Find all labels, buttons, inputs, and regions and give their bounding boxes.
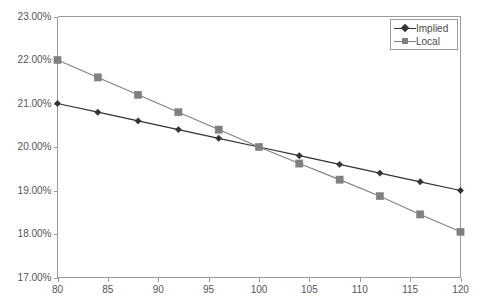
x-tick-label: 95 <box>189 284 229 295</box>
legend-label-local: Local <box>416 36 440 47</box>
legend-swatch-implied <box>394 23 416 34</box>
x-tick-label: 120 <box>441 284 481 295</box>
y-tick-label: 18.00% <box>0 228 52 239</box>
x-tick-label: 85 <box>88 284 128 295</box>
chart-legend: Implied Local <box>390 19 458 50</box>
y-tick-label: 22.00% <box>0 54 52 65</box>
x-tick-label: 100 <box>239 284 279 295</box>
y-tick-label: 17.00% <box>0 272 52 283</box>
chart-container: 17.00%18.00%19.00%20.00%21.00%22.00%23.0… <box>0 0 482 308</box>
legend-item-implied: Implied <box>391 22 457 35</box>
x-tick-label: 115 <box>390 284 430 295</box>
y-tick-label: 21.00% <box>0 98 52 109</box>
y-tick-label: 23.00% <box>0 11 52 22</box>
y-tick-label: 20.00% <box>0 141 52 152</box>
x-tick-label: 105 <box>289 284 329 295</box>
legend-label-implied: Implied <box>416 23 448 34</box>
series-layer <box>54 56 464 235</box>
square-marker-icon <box>402 38 408 44</box>
series-local <box>54 56 464 235</box>
legend-item-local: Local <box>391 35 457 48</box>
x-tick-label: 80 <box>38 284 78 295</box>
x-tick-label: 110 <box>340 284 380 295</box>
legend-swatch-local <box>394 36 416 47</box>
x-tick-label: 90 <box>138 284 178 295</box>
y-tick-label: 19.00% <box>0 185 52 196</box>
diamond-marker-icon <box>401 24 409 32</box>
